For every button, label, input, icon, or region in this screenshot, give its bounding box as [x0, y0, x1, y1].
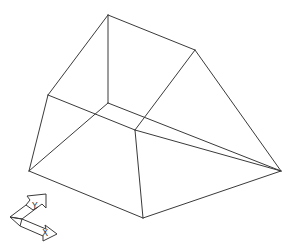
drawing-viewport[interactable]: Y X	[0, 0, 294, 248]
ucs-x-label: X	[42, 228, 48, 238]
ucs-x-arrow	[10, 217, 57, 241]
ucs-axis-icon: Y X	[0, 0, 294, 248]
ucs-y-label: Y	[31, 201, 38, 211]
ucs-y-arrow	[10, 194, 46, 219]
